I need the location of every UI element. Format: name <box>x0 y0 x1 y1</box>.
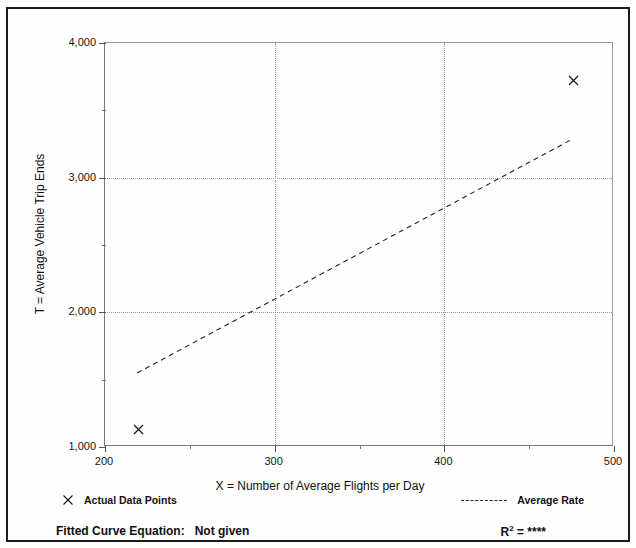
chart-footer: Fitted Curve Equation: Not given R2 = **… <box>8 524 632 544</box>
x-axis-title: X = Number of Average Flights per Day <box>8 479 632 493</box>
r-squared-label: R <box>500 525 509 539</box>
y-axis-tick-label: 1,000 <box>52 440 96 452</box>
x-marker-icon <box>62 494 74 506</box>
fitted-curve-label: Fitted Curve Equation: <box>56 524 185 538</box>
plot-area <box>104 42 613 446</box>
x-axis-tick-label: 500 <box>604 455 622 467</box>
legend-label-actual-data-points: Actual Data Points <box>84 494 177 506</box>
legend-label-average-rate: Average Rate <box>517 494 584 506</box>
figure-border: 2003004005001,0002,0003,0004,000 X = Num… <box>6 7 630 542</box>
fitted-curve-equation: Fitted Curve Equation: Not given <box>56 524 249 538</box>
figure-page: 2003004005001,0002,0003,0004,000 X = Num… <box>0 0 636 548</box>
r-squared-statistic: R2 = **** <box>500 524 546 539</box>
y-axis-tick-label: 3,000 <box>52 171 96 183</box>
dashed-line-icon <box>461 500 507 501</box>
legend-item-actual-data-points: Actual Data Points <box>62 494 177 506</box>
x-axis-tick-label: 400 <box>434 455 452 467</box>
r-squared-value: **** <box>527 525 546 539</box>
y-axis-title: T = Average Vehicle Trip Ends <box>33 74 47 394</box>
legend-item-average-rate: Average Rate <box>461 494 584 506</box>
page-top-cropped-text <box>0 0 636 7</box>
fitted-curve-value: Not given <box>195 524 250 538</box>
y-axis-tick <box>99 447 106 448</box>
y-axis-tick-label: 4,000 <box>52 36 96 48</box>
r-squared-exponent: 2 <box>509 524 513 533</box>
x-axis-tick-label: 300 <box>264 455 282 467</box>
chart-legend: Actual Data Points Average Rate <box>8 494 632 514</box>
y-axis-tick-label: 2,000 <box>52 305 96 317</box>
x-axis-tick-label: 200 <box>95 455 113 467</box>
trend-line-average-rate <box>105 43 614 447</box>
r-squared-equals: = <box>517 525 524 539</box>
x-axis-tick <box>614 446 615 452</box>
